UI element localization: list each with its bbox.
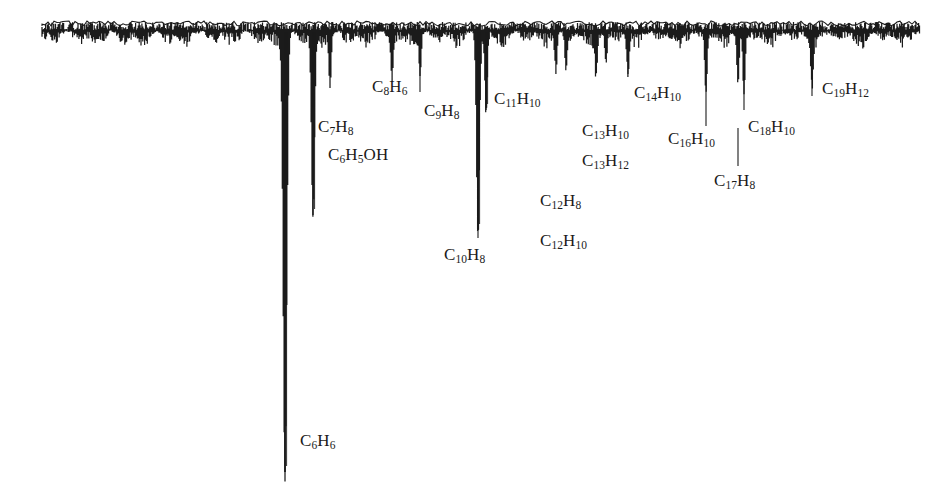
peak-label-text: C14H10: [634, 84, 681, 101]
peak-label-c12h10: C12H10: [540, 232, 587, 249]
peak-label-text: C12H8: [540, 192, 581, 209]
peak-label-c8h6: C8H6: [372, 78, 408, 95]
peak-label-text: C17H8: [714, 172, 755, 189]
peak-label-text: C16H10: [668, 130, 715, 147]
peak-label-text: C19H12: [822, 80, 869, 97]
peak-label-text: C6H5OH: [328, 146, 389, 163]
peak-label-c6h6: C6H6: [300, 432, 336, 449]
peak-label-c18h10: C18H10: [748, 118, 795, 135]
peak-label-c19h12: C19H12: [822, 80, 869, 97]
peak-label-text: C13H12: [582, 152, 629, 169]
peak-label-text: C18H10: [748, 118, 795, 135]
peak-label-text: C7H8: [318, 118, 354, 135]
peak-label-c10h8: C10H8: [444, 246, 485, 263]
peak-label-text: C13H10: [582, 122, 629, 139]
peak-label-c13h12: C13H12: [582, 152, 629, 169]
label-leader-lines: [285, 40, 812, 472]
peak-label-c14h10: C14H10: [634, 84, 681, 101]
peak-label-text: C11H10: [494, 90, 541, 107]
chromatogram-trace: [0, 0, 952, 487]
peak-label-c12h8: C12H8: [540, 192, 581, 209]
peak-label-text: C10H8: [444, 246, 485, 263]
peak-label-c6h5oh: C6H5OH: [328, 146, 389, 163]
chromatogram-figure: C6H6C7H8C6H5OHC8H6C9H8C10H8C11H10C12H8C1…: [0, 0, 952, 487]
peak-label-text: C8H6: [372, 78, 408, 95]
peak-label-c17h8: C17H8: [714, 172, 755, 189]
peak-label-c13h10: C13H10: [582, 122, 629, 139]
peak-label-c9h8: C9H8: [424, 102, 460, 119]
peak-label-c7h8: C7H8: [318, 118, 354, 135]
peak-label-c11h10: C11H10: [494, 90, 541, 107]
peak-label-text: C6H6: [300, 432, 336, 449]
peak-label-c16h10: C16H10: [668, 130, 715, 147]
peak-label-text: C9H8: [424, 102, 460, 119]
peak-label-text: C12H10: [540, 232, 587, 249]
